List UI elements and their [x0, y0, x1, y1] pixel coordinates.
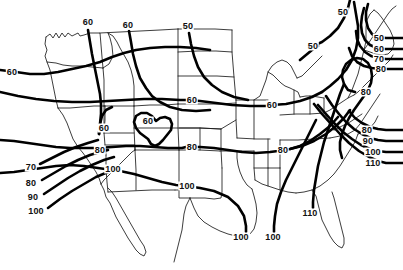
- contour-label: 100: [264, 233, 282, 242]
- contour-label: 50: [182, 22, 194, 31]
- contour-label: 80: [94, 146, 106, 155]
- contour-60-vert-west: [88, 30, 101, 134]
- contour-label: 110: [301, 209, 318, 218]
- contour-map-figure: 60 60 50 50 50 60 50 60 70 80 80 60 60 6…: [0, 0, 403, 270]
- contour-60-north: [0, 47, 210, 74]
- contour-label: 60: [82, 18, 94, 27]
- contour-70-sw: [40, 140, 98, 164]
- contour-label: 60: [266, 101, 278, 110]
- contour-label: 80: [186, 143, 198, 152]
- contour-label: 60: [98, 124, 110, 133]
- contour-label: 100: [364, 148, 382, 157]
- contour-label: 60: [122, 21, 134, 30]
- contour-label: 100: [27, 207, 45, 216]
- contour-label: 100: [104, 165, 122, 174]
- contour-label: 80: [277, 146, 289, 155]
- contour-label: 80: [375, 65, 387, 74]
- contour-label: 80: [360, 88, 372, 97]
- contour-label: 60: [186, 96, 198, 105]
- contour-label: 110: [364, 159, 381, 168]
- contour-label: 70: [25, 163, 37, 172]
- contour-label: 50: [373, 34, 385, 43]
- contour-label: 80: [361, 126, 373, 135]
- contour-label: 100: [232, 233, 250, 242]
- contour-label: 50: [307, 42, 319, 51]
- contour-label: 60: [6, 68, 18, 77]
- contour-label: 70: [373, 55, 385, 64]
- contour-50-vert-plains: [189, 33, 248, 100]
- contour-label: 50: [337, 8, 349, 17]
- contour-label: 80: [25, 179, 37, 188]
- contour-label: 90: [362, 137, 374, 146]
- contour-label: 90: [27, 193, 39, 202]
- contour-label: 100: [178, 182, 196, 191]
- map-svg: [0, 0, 403, 270]
- contour-label: 60: [142, 117, 154, 126]
- contour-label: 60: [373, 45, 385, 54]
